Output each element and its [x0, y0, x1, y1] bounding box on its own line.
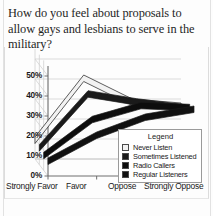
legend-item: Radio Callers: [122, 161, 199, 169]
legend-rows: Never ListenSometimes ListenedRadio Call…: [122, 143, 199, 178]
y-axis-tick-label: 40%: [16, 91, 42, 100]
y-axis-tick-label: 10%: [16, 151, 42, 160]
legend-item-label: Sometimes Listened: [133, 152, 196, 161]
x-axis-tick-label: Favor: [66, 181, 86, 191]
legend-item: Sometimes Listened: [122, 152, 199, 160]
legend-item: Regular Listeners: [122, 170, 199, 178]
legend-swatch-icon: [122, 171, 129, 178]
legend-heading: Legend: [122, 132, 199, 141]
y-axis-tick-label: 0%: [16, 171, 42, 180]
page-title: How do you feel about proposals to allow…: [8, 6, 206, 53]
legend-item: Never Listen: [122, 143, 199, 151]
legend-swatch-icon: [122, 162, 129, 169]
legend-item-label: Regular Listeners: [133, 170, 188, 179]
y-axis-tick-label: 50%: [16, 71, 42, 80]
chart-legend: Legend Never ListenSometimes ListenedRad…: [118, 129, 202, 183]
legend-swatch-icon: [122, 153, 129, 160]
x-axis-tick-label: Strongly Favor: [6, 181, 58, 191]
legend-item-label: Radio Callers: [133, 161, 175, 170]
chart-container: 0%10%20%30%40%50% Strongly FavorFavorOpp…: [4, 47, 209, 199]
legend-swatch-icon: [122, 144, 129, 151]
legend-item-label: Never Listen: [133, 143, 172, 152]
y-axis-tick-label: 20%: [16, 131, 42, 140]
chart-page: How do you feel about proposals to allow…: [0, 0, 213, 216]
y-axis-tick-label: 30%: [16, 111, 42, 120]
